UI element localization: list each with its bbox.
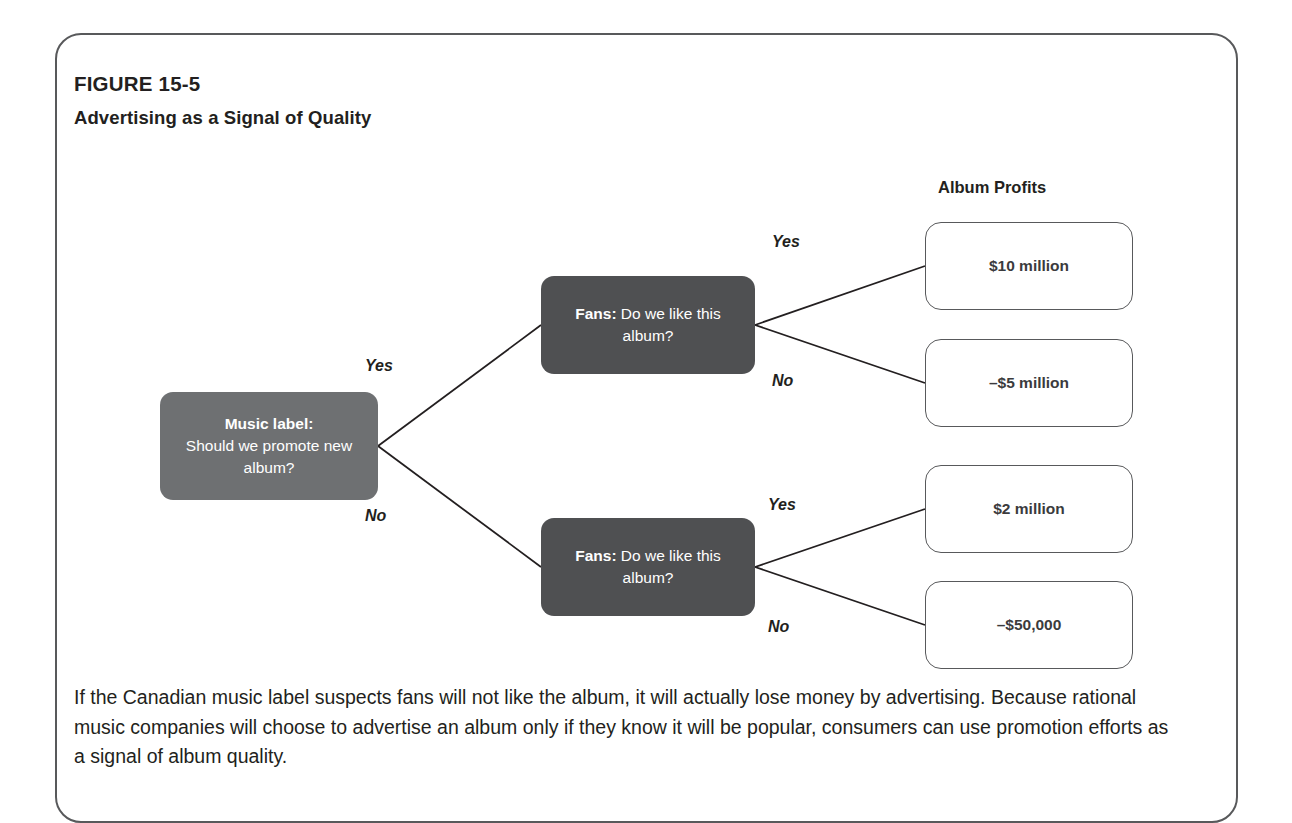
outcome-box-4[interactable]: –$50,000: [925, 581, 1133, 669]
edge-bottom-no: [755, 567, 925, 625]
outcome-box-3[interactable]: $2 million: [925, 465, 1133, 553]
branch-label-root-no: No: [365, 507, 386, 525]
outcome-value-2: –$5 million: [989, 374, 1069, 392]
edge-top-yes: [755, 266, 925, 325]
branch-label-bottom-yes: Yes: [768, 496, 796, 514]
node-music-label-question: Should we promote new album?: [186, 437, 352, 476]
node-music-label-lead: Music label:: [225, 415, 314, 432]
edge-root-yes: [378, 325, 541, 446]
node-fans-top-lead: Fans:: [575, 305, 616, 322]
outcome-value-4: –$50,000: [997, 616, 1062, 634]
node-music-label[interactable]: Music label: Should we promote new album…: [160, 392, 378, 500]
node-fans-top[interactable]: Fans: Do we like this album?: [541, 276, 755, 374]
branch-label-top-no: No: [772, 372, 793, 390]
node-fans-bottom[interactable]: Fans: Do we like this album?: [541, 518, 755, 616]
node-fans-bottom-question: Do we like this album?: [621, 547, 721, 586]
edge-bottom-yes: [755, 509, 925, 567]
branch-label-bottom-no: No: [768, 618, 789, 636]
edge-root-no: [378, 446, 541, 567]
figure-caption: If the Canadian music label suspects fan…: [74, 683, 1184, 772]
branch-label-top-yes: Yes: [772, 233, 800, 251]
branch-label-root-yes: Yes: [365, 357, 393, 375]
outcome-value-3: $2 million: [993, 500, 1065, 518]
node-fans-top-question: Do we like this album?: [621, 305, 721, 344]
outcome-box-2[interactable]: –$5 million: [925, 339, 1133, 427]
outcome-value-1: $10 million: [989, 257, 1069, 275]
album-profits-heading: Album Profits: [938, 178, 1046, 197]
outcome-box-1[interactable]: $10 million: [925, 222, 1133, 310]
node-fans-bottom-lead: Fans:: [575, 547, 616, 564]
